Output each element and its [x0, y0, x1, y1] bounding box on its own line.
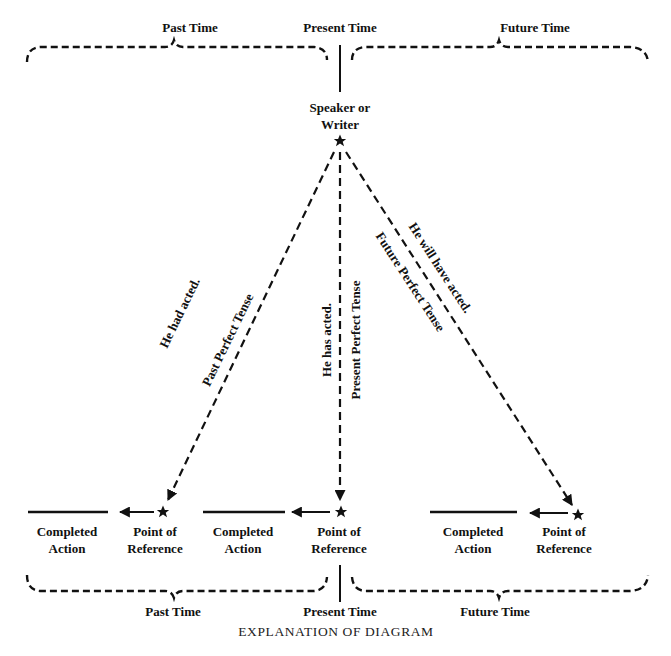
present-completed-action-label: Completed Action	[213, 523, 274, 557]
top-future-brace	[352, 40, 648, 62]
future-perfect-line	[346, 152, 572, 505]
top-past-time-label: Past Time	[162, 19, 218, 36]
future-point-of-reference-label: Point of Reference	[536, 523, 591, 557]
future-reference-star-icon	[572, 509, 584, 521]
speaker-label: Speaker or Writer	[310, 99, 371, 133]
past-perfect-line	[168, 152, 334, 500]
future-completed-action-label: Completed Action	[443, 523, 504, 557]
bottom-past-brace	[27, 575, 327, 598]
reference-line2: Reference	[127, 540, 182, 557]
reference-line1: Point of	[536, 523, 591, 540]
completed-line2: Action	[443, 540, 504, 557]
reference-line1: Point of	[127, 523, 182, 540]
present-point-of-reference-label: Point of Reference	[311, 523, 366, 557]
past-point-of-reference-label: Point of Reference	[127, 523, 182, 557]
completed-line2: Action	[213, 540, 274, 557]
completed-line2: Action	[37, 540, 98, 557]
reference-line1: Point of	[311, 523, 366, 540]
bottom-present-time-label: Present Time	[303, 603, 376, 620]
present-reference-star-icon	[335, 506, 347, 518]
completed-line1: Completed	[37, 523, 98, 540]
present-perfect-example: He has acted.	[319, 303, 335, 377]
bottom-future-brace	[352, 575, 648, 598]
top-past-brace	[27, 40, 327, 62]
speaker-line1: Speaker or	[310, 99, 371, 116]
speaker-star-icon	[334, 135, 346, 147]
bottom-future-time-label: Future Time	[460, 603, 530, 620]
speaker-line2: Writer	[310, 116, 371, 133]
top-future-time-label: Future Time	[500, 19, 570, 36]
past-completed-action-label: Completed Action	[37, 523, 98, 557]
completed-line1: Completed	[213, 523, 274, 540]
reference-line2: Reference	[536, 540, 591, 557]
top-present-time-label: Present Time	[303, 19, 376, 36]
past-reference-star-icon	[157, 506, 169, 518]
present-perfect-tense-label: Present Perfect Tense	[348, 281, 364, 400]
reference-line2: Reference	[311, 540, 366, 557]
diagram-caption: EXPLANATION OF DIAGRAM	[238, 624, 433, 640]
bottom-past-time-label: Past Time	[145, 603, 201, 620]
completed-line1: Completed	[443, 523, 504, 540]
